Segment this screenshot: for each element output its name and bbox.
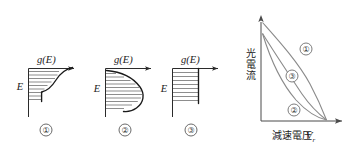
photocurrent-graph: ① ③ ② 光電流 減速電圧 V r: [230, 0, 349, 147]
curve-label-2-text: ②: [290, 106, 297, 115]
y-axis-label: 光電流: [245, 47, 256, 81]
axis-label-gE-1: g(E): [37, 54, 56, 66]
hatch-fill-2: [106, 74, 143, 109]
diagram-number-2: ②: [119, 124, 131, 136]
diagram-number-1: ①: [40, 124, 52, 136]
axis-label-gE-2: g(E): [114, 54, 133, 66]
distribution-diagram-3: g(E) E ③: [160, 54, 218, 136]
axis-label-E-1: E: [16, 81, 24, 92]
diagram-number-3: ③: [185, 124, 197, 136]
diagram-number-2-label: ②: [121, 126, 128, 135]
hatch-fill-1: [29, 72, 60, 100]
axis-label-E-2: E: [93, 83, 101, 94]
curve-label-2: ②: [288, 104, 300, 116]
diagram-number-3-label: ③: [187, 126, 194, 135]
distribution-diagram-2: g(E) E ②: [93, 54, 151, 136]
curve-label-3-text: ③: [288, 72, 295, 81]
distribution-diagram-1: g(E) E ①: [16, 54, 74, 136]
axis-label-gE-3: g(E): [181, 54, 200, 66]
hatch-fill-3: [173, 73, 199, 101]
distribution-panels-group: g(E) E ①: [0, 0, 230, 147]
curve-label-1: ①: [300, 43, 312, 55]
figure-root: g(E) E ①: [0, 0, 349, 147]
y-axis-arrowhead-icon: [258, 15, 263, 22]
curve-label-1-text: ①: [302, 45, 309, 54]
curve-label-3: ③: [286, 70, 298, 82]
diagram-number-1-label: ①: [42, 126, 49, 135]
x-axis-label-subscript: r: [313, 136, 316, 144]
distribution-curve-1: [42, 67, 73, 101]
axis-label-E-3: E: [160, 83, 168, 94]
